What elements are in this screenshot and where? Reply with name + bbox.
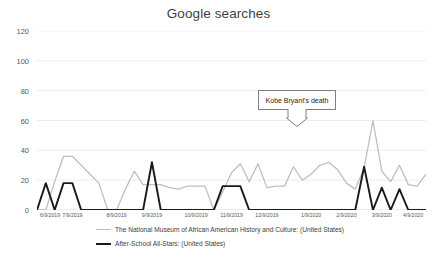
legend-item-museum: The National Museum of African American … <box>96 226 344 233</box>
x-axis-tick-label: 8/9/2019 <box>106 212 126 218</box>
legend-item-afterschool: After-School All-Stars: (United States) <box>96 240 225 247</box>
chart-legend: The National Museum of African American … <box>0 226 437 260</box>
annotation-callout-box: Kobe Bryant's death <box>258 90 336 110</box>
x-axis-tick-label: 7/9/2019 <box>62 212 82 218</box>
y-axis-tick-label: 100 <box>16 56 29 65</box>
google-searches-chart: Google searches 020406080100120 6/9/2019… <box>0 0 437 262</box>
series-line-0 <box>37 121 426 211</box>
x-axis-tick-label: 6/9/2019 <box>40 212 60 218</box>
annotation-arrow-icon <box>286 109 308 127</box>
legend-label-afterschool: After-School All-Stars: (United States) <box>115 240 225 247</box>
x-axis-tick-label: 11/9/2019 <box>220 212 243 218</box>
y-axis-tick-label: 120 <box>16 27 29 36</box>
x-axis-tick-label: 3/9/2020 <box>372 212 392 218</box>
x-axis: 6/9/20197/9/20198/9/20199/9/201910/9/201… <box>37 212 426 224</box>
series-line-1 <box>37 162 426 210</box>
series-lines <box>37 121 426 211</box>
legend-swatch-black-icon <box>96 243 111 245</box>
x-axis-tick-label: 4/9/2020 <box>403 212 423 218</box>
x-axis-tick-label: 12/9/2019 <box>255 212 278 218</box>
y-axis-tick-label: 80 <box>21 86 29 95</box>
y-axis-tick-label: 0 <box>25 206 29 215</box>
y-axis-tick-label: 20 <box>21 176 29 185</box>
x-axis-tick-label: 1/9/2020 <box>301 212 321 218</box>
y-axis-tick-label: 60 <box>21 116 29 125</box>
plot-area <box>37 31 426 210</box>
annotation-label: Kobe Bryant's death <box>259 91 335 109</box>
chart-title: Google searches <box>0 6 437 21</box>
plot-svg <box>37 31 426 210</box>
x-axis-tick-label: 2/9/2020 <box>336 212 356 218</box>
y-axis-tick-label: 40 <box>21 146 29 155</box>
legend-label-museum: The National Museum of African American … <box>115 226 344 233</box>
y-axis: 020406080100120 <box>0 31 33 210</box>
legend-swatch-gray-icon <box>96 229 111 230</box>
x-axis-tick-label: 9/9/2019 <box>142 212 162 218</box>
x-axis-tick-label: 10/9/2019 <box>185 212 208 218</box>
